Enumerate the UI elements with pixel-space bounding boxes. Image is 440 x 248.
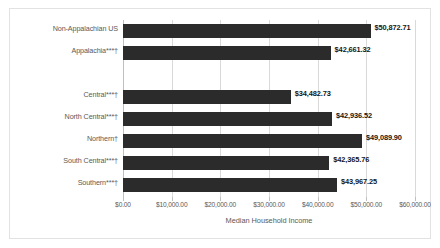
x-axis-tick-labels: $0.00$10,000.00$20,000.00$30,000.00$40,0… [123,201,415,213]
x-axis-tick-label: $20,000.00 [205,201,237,208]
bar-row-empty [123,64,415,86]
category-label: Central***† [84,90,118,99]
bar-row: Appalachia***†$42,661.32 [123,42,415,64]
chart-container: Non-Appalachian US$50,872.71Appalachia**… [9,8,431,239]
bar-value-label: $42,661.32 [335,45,371,54]
x-axis-tick-label: $60,000.00 [399,201,431,208]
bar-value-label: $42,365.76 [333,155,369,164]
bar [123,112,332,126]
bar-value-label: $49,089.90 [366,133,402,142]
x-axis-tick-label: $10,000.00 [156,201,188,208]
bar [123,90,291,104]
x-axis-tick-label: $30,000.00 [253,201,285,208]
x-axis-tick-label: $0.00 [115,201,131,208]
bar-row: South Central***†$42,365.76 [123,152,415,174]
bar-row: Central***†$34,482.73 [123,86,415,108]
bar-value-label: $34,482.73 [295,89,331,98]
category-label: North Central***† [65,112,118,121]
bar-row: Non-Appalachian US$50,872.71 [123,20,415,42]
bar [123,178,337,192]
bar-row: Southern***†$43,967.25 [123,174,415,196]
bar-value-label: $50,872.71 [375,23,411,32]
x-axis-title: Median Household Income [123,216,415,225]
category-label: Appalachia***† [71,46,118,55]
bar [123,24,371,38]
x-axis-tick-label: $50,000.00 [351,201,383,208]
category-label: Non-Appalachian US [53,24,118,33]
gridline [415,20,416,197]
category-label: Southern***† [78,178,118,187]
bar [123,156,329,170]
category-label: South Central***† [63,156,118,165]
category-label: Northern† [87,134,118,143]
bar [123,46,331,60]
x-axis-tick-label: $40,000.00 [302,201,334,208]
bar-row: Northern†$49,089.90 [123,130,415,152]
bar-row: North Central***†$42,936.52 [123,108,415,130]
bar [123,134,362,148]
plot-area: Non-Appalachian US$50,872.71Appalachia**… [123,20,415,197]
bar-value-label: $42,936.52 [336,111,372,120]
bar-value-label: $43,967.25 [341,177,377,186]
